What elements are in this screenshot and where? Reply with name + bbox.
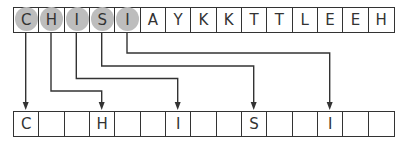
target-cell-14 — [369, 112, 394, 136]
arrowhead-icon — [99, 102, 105, 110]
source-cell-9: T — [242, 8, 267, 32]
target-cell-4 — [115, 112, 140, 136]
source-cell-7: K — [191, 8, 216, 32]
arrowhead-icon — [251, 102, 257, 110]
target-cell-9: S — [242, 112, 267, 136]
target-cell-8 — [217, 112, 242, 136]
source-cell-13: E — [343, 8, 368, 32]
arrowhead-icon — [327, 102, 333, 110]
arrow-h — [51, 33, 102, 103]
arrow-s — [102, 33, 254, 103]
source-row: C H I S I A Y K K T T L E E H — [13, 7, 395, 33]
target-row: C H I S I — [13, 111, 395, 137]
arrowhead-icon — [23, 102, 29, 110]
target-cell-13 — [343, 112, 368, 136]
target-cell-0: C — [14, 112, 39, 136]
target-cell-3: H — [90, 112, 115, 136]
target-cell-11 — [293, 112, 318, 136]
arrowhead-icon — [175, 102, 181, 110]
source-cell-6: Y — [166, 8, 191, 32]
target-cell-10 — [267, 112, 292, 136]
source-cell-1: H — [39, 8, 64, 32]
source-cell-4: I — [115, 8, 140, 32]
source-cell-12: E — [318, 8, 343, 32]
target-cell-12: I — [318, 112, 343, 136]
arrow-i-first — [76, 33, 177, 103]
source-cell-3: S — [90, 8, 115, 32]
source-cell-8: K — [217, 8, 242, 32]
source-cell-11: L — [293, 8, 318, 32]
source-cell-2: I — [65, 8, 90, 32]
source-cell-5: A — [141, 8, 166, 32]
target-cell-1 — [39, 112, 64, 136]
target-cell-6: I — [166, 112, 191, 136]
target-cell-2 — [65, 112, 90, 136]
target-cell-5 — [141, 112, 166, 136]
target-cell-7 — [191, 112, 216, 136]
source-cell-10: T — [267, 8, 292, 32]
source-cell-14: H — [369, 8, 394, 32]
source-cell-0: C — [14, 8, 39, 32]
character-mapping-diagram: C H I S I A Y K K T T L E E H C H I S I — [0, 0, 404, 146]
arrow-i-second — [127, 33, 330, 103]
